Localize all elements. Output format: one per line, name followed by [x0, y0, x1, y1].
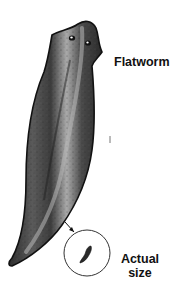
actual-size-inset [64, 230, 110, 276]
actual-size-label-line1: Actual [118, 252, 162, 266]
actual-size-label: Actual size [118, 252, 162, 280]
actual-size-label-line2: size [118, 266, 162, 280]
flatworm-illustration [0, 0, 179, 294]
flatworm-body [9, 21, 102, 266]
flatworm-label: Flatworm [114, 55, 170, 69]
pointer-arrow [65, 222, 74, 232]
